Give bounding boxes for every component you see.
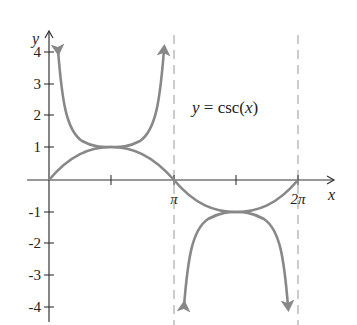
x-tick-label-pi: π [170, 191, 178, 207]
x-tick-label-2pi: 2π [290, 191, 306, 207]
y-tick-label: 2 [34, 107, 42, 123]
csc-chart: 4 3 2 1 -1 -2 -3 -4 π 2π x y y = csc(x) [0, 0, 357, 325]
y-tick-label: 3 [34, 76, 42, 92]
y-tick-label: -1 [29, 204, 42, 220]
axes [27, 31, 334, 322]
y-tick-label: -3 [29, 267, 42, 283]
y-tick-label: -4 [29, 299, 42, 315]
y-tick-label: -2 [29, 235, 42, 251]
csc-branch-negative [184, 212, 288, 306]
function-annotation: y = csc(x) [190, 98, 258, 117]
x-axis-label: x [327, 186, 335, 203]
csc-branch-positive [58, 50, 164, 147]
y-tick-label: 1 [34, 139, 42, 155]
y-axis-label: y [30, 30, 40, 48]
